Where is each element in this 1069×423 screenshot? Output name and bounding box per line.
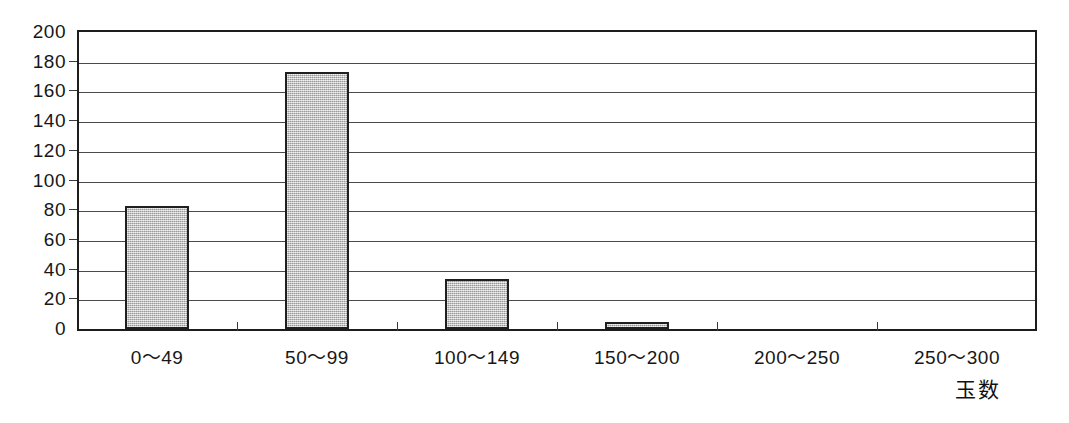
y-tick-label: 100 xyxy=(0,171,66,190)
bar xyxy=(605,322,669,329)
x-axis-title: 玉数 xyxy=(955,378,1001,402)
y-tick-label: 40 xyxy=(0,260,66,279)
y-tick-label: 120 xyxy=(0,141,66,160)
x-tick-label: 250〜300 xyxy=(914,347,1000,368)
x-tick-label: 100〜149 xyxy=(434,347,520,368)
y-tick-label: 20 xyxy=(0,289,66,308)
y-tick-label: 140 xyxy=(0,111,66,130)
x-tick-mark xyxy=(397,322,398,331)
x-axis: 0〜4950〜99100〜149150〜200200〜250250〜300 xyxy=(77,331,1037,391)
y-tick-label: 60 xyxy=(0,230,66,249)
bar xyxy=(125,206,189,329)
x-tick-mark xyxy=(557,322,558,331)
y-tick-label: 0 xyxy=(0,319,66,338)
bar xyxy=(445,279,509,329)
x-tick-mark xyxy=(717,322,718,331)
bars-layer xyxy=(77,30,1037,331)
x-tick-label: 50〜99 xyxy=(285,347,349,368)
y-tick-label: 80 xyxy=(0,200,66,219)
y-axis: 200180160140120100806040200 xyxy=(0,0,66,423)
x-tick-mark xyxy=(237,322,238,331)
bar-chart-figure: 200180160140120100806040200 0〜4950〜99100… xyxy=(0,0,1069,423)
x-tick-label: 150〜200 xyxy=(594,347,680,368)
y-tick-label: 200 xyxy=(0,22,66,41)
y-tick-label: 160 xyxy=(0,81,66,100)
x-tick-label: 0〜49 xyxy=(131,347,184,368)
y-tick-label: 180 xyxy=(0,52,66,71)
bar xyxy=(285,72,349,329)
x-tick-mark xyxy=(877,322,878,331)
x-tick-label: 200〜250 xyxy=(754,347,840,368)
